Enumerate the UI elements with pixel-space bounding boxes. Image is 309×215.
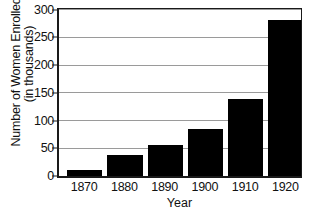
x-axis-tick-label: 1890 [151,180,178,194]
plot-area [57,8,302,178]
bar [228,99,263,176]
bar [148,145,183,176]
bar-chart-figure: Number of Women Enrolled (in thousands) … [0,0,309,215]
x-axis-tick-label: 1920 [272,180,299,194]
x-axis-tick-label: 1910 [232,180,259,194]
bar [268,20,302,176]
x-axis-title: Year [57,196,302,210]
y-axis-tick-marks [0,0,57,215]
x-axis-tick-label: 1900 [192,180,219,194]
x-axis-tick-label: 1880 [111,180,138,194]
bar [67,170,102,176]
bar [188,129,223,176]
x-axis-tick-label: 1870 [71,180,98,194]
bar [107,155,142,176]
x-axis-tick-labels: 187018801890190019101920 [57,180,302,196]
bars-layer [59,9,301,176]
